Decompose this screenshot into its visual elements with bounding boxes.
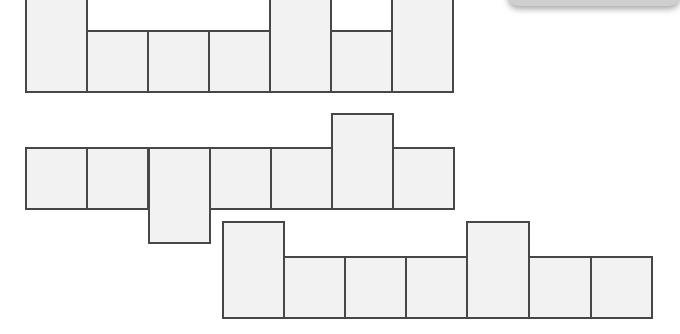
net-square (208, 30, 271, 93)
net-square (148, 147, 211, 244)
net-square (86, 30, 149, 93)
net-square (269, 0, 332, 93)
net-square (222, 221, 285, 319)
net-square (25, 0, 88, 93)
net-square (330, 30, 393, 93)
net-square (528, 256, 592, 319)
cropped-panel-shadow (508, 0, 680, 6)
net-square (86, 147, 149, 210)
net-square (590, 256, 653, 319)
net-square (466, 221, 530, 319)
net-square (391, 0, 454, 93)
net-square (405, 256, 468, 319)
net-square (283, 256, 346, 319)
net-square (270, 147, 333, 210)
net-square (25, 147, 88, 210)
net-square (392, 147, 455, 210)
net-square (209, 147, 272, 210)
net-square (331, 113, 394, 210)
net-square (147, 30, 210, 93)
net-square (344, 256, 407, 319)
